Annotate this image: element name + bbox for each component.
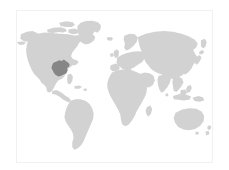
map-thumbnail: World Map bbox=[0, 0, 229, 170]
ireland-shape bbox=[110, 53, 114, 57]
map-frame: Central United States bbox=[16, 10, 213, 163]
world-map-svg bbox=[17, 11, 212, 162]
